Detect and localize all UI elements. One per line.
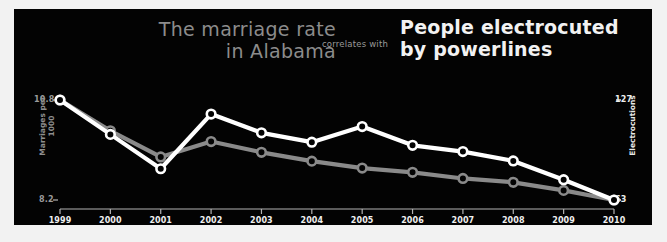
- plot-area: [14, 9, 652, 225]
- axis-lines: [53, 100, 621, 214]
- x-axis-tick-label: 2007: [441, 216, 485, 225]
- chart-frame: The marriage rate in Alabama correlates …: [0, 0, 667, 242]
- x-axis-tick-label: 2003: [239, 216, 283, 225]
- x-axis-tick-label: 2002: [189, 216, 233, 225]
- chart-panel: The marriage rate in Alabama correlates …: [14, 9, 652, 225]
- x-axis-tick-label: 2008: [491, 216, 535, 225]
- series-lines: [56, 96, 619, 205]
- x-axis-tick-label: 2009: [542, 216, 586, 225]
- x-axis-tick-label: 2006: [391, 216, 435, 225]
- x-axis-tick-label: 2004: [290, 216, 334, 225]
- x-axis-tick-label: 2005: [340, 216, 384, 225]
- x-axis-tick-label: 2001: [139, 216, 183, 225]
- x-axis-tick-label: 2010: [592, 216, 636, 225]
- x-axis-tick-label: 1999: [38, 216, 82, 225]
- x-axis-tick-label: 2000: [88, 216, 132, 225]
